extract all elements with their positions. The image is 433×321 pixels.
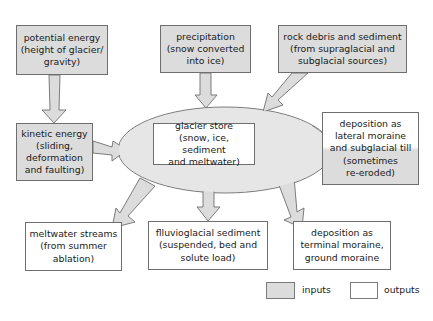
- node-line: (height of glacier/: [21, 44, 104, 56]
- arrow-store-to-fluvioglacial: [197, 190, 220, 221]
- node-line: potential energy: [21, 32, 104, 44]
- node-line: (snow, ice, sediment: [157, 132, 251, 156]
- node-line: into ice): [167, 55, 245, 67]
- node-meltwater-streams: meltwater streams (from summer ablation): [25, 222, 122, 271]
- node-line: flluvioglacial sediment: [156, 227, 261, 239]
- arrow-potential-to-kinetic: [42, 75, 66, 123]
- node-potential-energy: potential energy (height of glacier/ gra…: [16, 25, 108, 75]
- node-line: and faulting): [21, 164, 87, 176]
- node-line: rock debris and sediment: [283, 31, 401, 43]
- node-line: deposition as: [330, 118, 412, 130]
- legend-outputs-label: outputs: [384, 284, 420, 296]
- node-line: re-eroded): [330, 167, 412, 179]
- legend-outputs-swatch: [350, 282, 378, 299]
- node-line: gravity): [21, 56, 104, 68]
- node-line: and meltwater): [157, 156, 251, 168]
- legend-inputs-swatch: [266, 282, 295, 299]
- arrow-precipitation-to-store: [195, 73, 217, 108]
- arrow-rock-debris-to-store: [263, 73, 308, 112]
- node-line: deformation: [21, 152, 87, 164]
- node-line: (sliding,: [21, 140, 87, 152]
- node-rock-debris: rock debris and sediment (from supraglac…: [278, 25, 407, 73]
- node-line: deposition as: [300, 227, 383, 239]
- node-line: (suspended, bed and: [156, 239, 261, 251]
- node-precipitation: precipitation (snow converted into ice): [160, 25, 251, 73]
- node-line: lateral moraine: [330, 130, 412, 142]
- node-line: kinetic energy: [21, 128, 87, 140]
- node-line: solute load): [156, 252, 261, 264]
- legend-inputs-label: inputs: [302, 284, 331, 296]
- node-fluvioglacial-sediment: flluvioglacial sediment (suspended, bed …: [148, 221, 268, 270]
- node-line: (from summer: [30, 240, 118, 252]
- node-line: ablation): [30, 253, 118, 265]
- node-line: subglacial sources): [283, 55, 401, 67]
- node-terminal-moraine: deposition as terminal moraine, ground m…: [293, 221, 391, 270]
- node-line: ground moraine: [300, 252, 383, 264]
- node-line: (from supraglacial and: [283, 43, 401, 55]
- node-line: meltwater streams: [30, 228, 118, 240]
- node-glacier-store: glacier store (snow, ice, sediment and m…: [153, 123, 255, 165]
- node-line: (sometimes: [330, 155, 412, 167]
- node-lateral-moraine: deposition as lateral moraine and subgla…: [322, 112, 419, 185]
- node-line: precipitation: [167, 31, 245, 43]
- node-line: glacier store: [157, 120, 251, 132]
- node-kinetic-energy: kinetic energy (sliding, deformation and…: [16, 123, 93, 181]
- node-line: and subglacial till: [330, 142, 412, 154]
- node-line: terminal moraine,: [300, 239, 383, 251]
- node-line: (snow converted: [167, 43, 245, 55]
